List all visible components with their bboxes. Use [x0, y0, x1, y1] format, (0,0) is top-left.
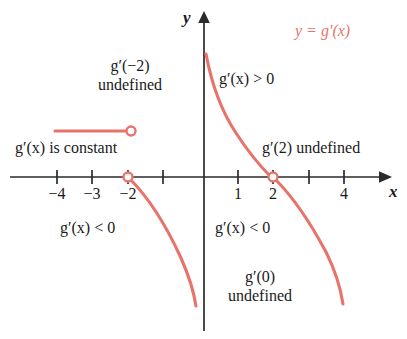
- annotation-g-prime-positive: g′(x) > 0: [219, 70, 274, 88]
- annotation-g-prime-minus-2-line2: undefined: [82, 76, 178, 94]
- annotation-g-prime-constant: g′(x) is constant: [15, 139, 117, 157]
- tick-label-4: 4: [340, 185, 348, 203]
- annotation-g-prime-2-undefined: g′(2) undefined: [262, 139, 360, 157]
- annotation-g-prime-0-line2: undefined: [205, 287, 315, 305]
- annotation-g-prime-negative-right: g′(x) < 0: [215, 219, 270, 237]
- graph-canvas: [0, 0, 407, 339]
- curve-branch-left-negative: [129, 178, 196, 306]
- annotation-g-prime-negative-left: g′(x) < 0: [60, 219, 115, 237]
- derivative-graph-figure: y x −4 −3 −2 1 2 4 y = g′(x) g′(−2) unde…: [0, 0, 407, 339]
- tick-label-minus-4: −4: [48, 185, 65, 203]
- annotation-g-prime-0-line1: g′(0): [205, 268, 315, 286]
- open-endpoint-group: [124, 127, 278, 182]
- tick-label-minus-2: −2: [119, 185, 136, 203]
- y-axis-label: y: [183, 8, 191, 27]
- x-axis: [10, 171, 392, 183]
- legend-label: y = g′(x): [295, 22, 350, 40]
- open-circle-at-x-2: [269, 173, 278, 182]
- y-axis-arrowhead: [198, 11, 210, 23]
- open-circle-constant-end: [127, 127, 136, 136]
- annotation-g-prime-minus-2-line1: g′(−2): [82, 57, 178, 75]
- tick-label-1: 1: [234, 185, 242, 203]
- open-circle-at-x-minus-2: [124, 173, 133, 182]
- tick-label-minus-3: −3: [83, 185, 100, 203]
- tick-label-2: 2: [269, 185, 277, 203]
- x-axis-label: x: [389, 182, 398, 201]
